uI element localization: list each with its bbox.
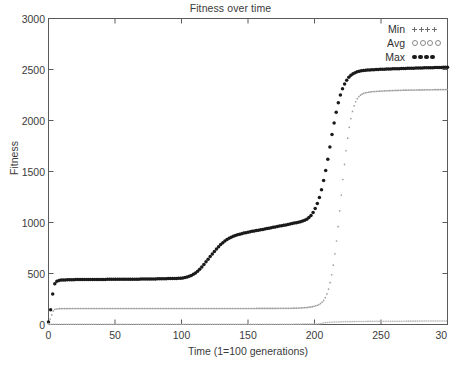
series-max xyxy=(47,65,450,323)
chart-legend: Min Avg Max xyxy=(358,22,442,64)
legend-item-avg: Avg xyxy=(358,36,442,50)
legend-label-max: Max xyxy=(371,51,405,63)
legend-marker-min xyxy=(412,27,442,32)
legend-marker-max xyxy=(412,55,442,60)
legend-item-min: Min xyxy=(358,22,442,36)
series-avg xyxy=(48,89,448,325)
legend-marker-avg xyxy=(412,40,442,46)
fitness-chart: Fitness over time Fitness Time (1=100 ge… xyxy=(0,0,461,371)
legend-label-min: Min xyxy=(371,23,405,35)
series-lines xyxy=(47,65,450,325)
legend-item-max: Max xyxy=(358,50,442,64)
legend-label-avg: Avg xyxy=(371,37,405,49)
